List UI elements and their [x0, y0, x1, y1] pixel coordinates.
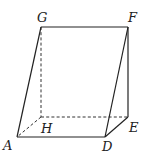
prism-diagram: G F H E A D [0, 0, 145, 156]
vertex-label-f: F [127, 10, 138, 25]
vertex-label-a: A [2, 138, 12, 153]
prism-figure: G F H E A D [0, 0, 145, 156]
hidden-edges [17, 27, 128, 137]
vertex-label-h: H [40, 121, 53, 136]
visible-edge-ga [17, 27, 41, 137]
vertex-label-d: D [101, 139, 113, 154]
vertex-label-e: E [128, 120, 139, 135]
vertex-labels: G F H E A D [2, 10, 139, 154]
vertex-label-g: G [37, 10, 47, 25]
visible-edges [17, 27, 128, 137]
